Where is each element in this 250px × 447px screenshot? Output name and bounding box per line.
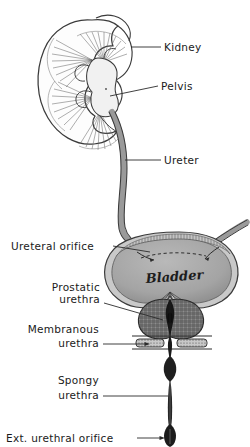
- pelvis-marker-dot: [105, 88, 107, 90]
- label-kidney: Kidney: [164, 41, 202, 53]
- diaphragm-slab-left: [136, 339, 164, 347]
- leader-pelvis: [110, 86, 158, 96]
- label-ureteral-orifice: Ureteral orifice: [11, 240, 94, 252]
- label-membranous-urethra-line1: Membranous: [28, 323, 99, 335]
- bladder-structure: Bladder: [105, 232, 238, 308]
- label-spongy-urethra-line2: urethra: [58, 389, 99, 401]
- label-prostatic-urethra-line2: urethra: [59, 293, 100, 305]
- label-membranous-urethra-line2: urethra: [58, 337, 99, 349]
- label-ext-urethral-orifice: Ext. urethral orifice: [6, 432, 113, 444]
- penile-shaft-structure: [164, 356, 177, 447]
- label-ureter: Ureter: [164, 154, 199, 166]
- renal-pelvis: [87, 58, 119, 117]
- prostate-structure: [138, 299, 203, 339]
- urinary-tract-diagram: Bladder: [0, 0, 250, 447]
- diaphragm-slab-right: [177, 339, 207, 347]
- label-spongy-urethra-line1: Spongy: [58, 374, 99, 386]
- label-pelvis: Pelvis: [161, 80, 193, 92]
- label-prostatic-urethra-line1: Prostatic: [52, 281, 100, 293]
